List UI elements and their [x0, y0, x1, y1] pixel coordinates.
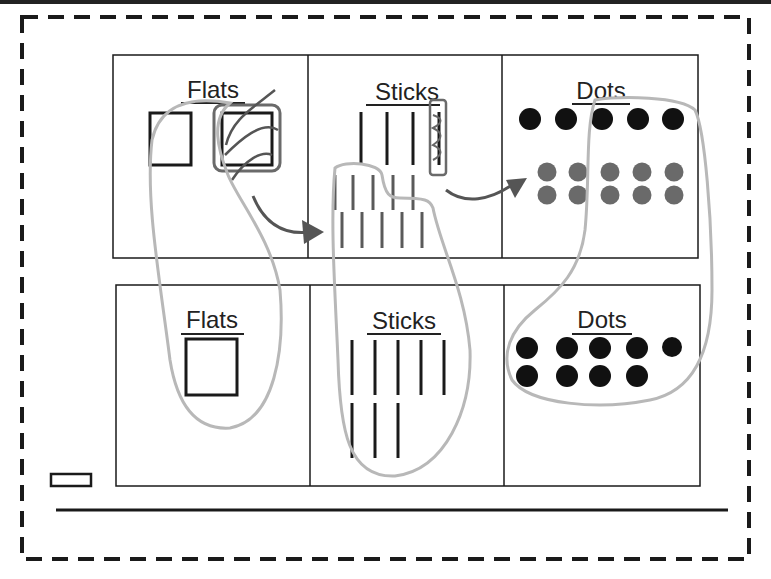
small-rect: [51, 474, 91, 486]
label-bottom-flats: Flats: [186, 306, 238, 333]
bottom-sticks: [352, 340, 444, 458]
top-sticks: [335, 100, 446, 248]
top-dots: [519, 108, 684, 205]
cutoff-top-text: [0, 0, 771, 4]
label-bottom-dots: Dots: [577, 306, 626, 333]
bottom-dots: [516, 337, 682, 387]
label-bottom-sticks: Sticks: [372, 307, 436, 334]
base-ten-diagram: Flats Sticks Dots Flats Sticks Dots: [0, 0, 771, 579]
bottom-flat: [186, 339, 237, 395]
arrow-head-1: [302, 220, 324, 244]
label-top-flats: Flats: [187, 76, 239, 103]
